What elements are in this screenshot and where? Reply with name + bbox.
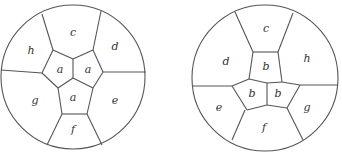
region-boundary xyxy=(267,105,287,108)
region-label-h: h xyxy=(27,44,34,57)
region-label-g: g xyxy=(31,94,38,107)
region-boundary xyxy=(278,13,293,52)
region-label-d: d xyxy=(222,55,229,68)
region-boundary xyxy=(73,78,93,88)
region-boundary xyxy=(247,105,267,110)
region-boundary xyxy=(278,52,282,82)
region-label-e: e xyxy=(216,101,223,114)
region-boundary xyxy=(58,78,73,88)
region-boundary xyxy=(93,11,101,50)
region-boundary xyxy=(1,70,42,73)
region-boundary xyxy=(93,72,103,88)
region-boundary xyxy=(73,50,93,59)
region-boundary xyxy=(287,85,300,108)
region-label-b: b xyxy=(262,60,269,73)
diagram-canvas: cdhaaagef cdhbbbegf xyxy=(0,0,342,157)
region-boundary xyxy=(249,79,267,83)
region-boundary xyxy=(93,50,103,72)
region-label-a: a xyxy=(70,91,77,104)
region-label-f: f xyxy=(70,123,77,136)
region-label-b: b xyxy=(248,87,255,100)
region-boundary xyxy=(232,110,245,140)
region-label-f: f xyxy=(261,121,268,134)
region-boundary xyxy=(287,108,303,140)
region-boundary xyxy=(232,86,247,110)
left-circle-diagram: cdhaaagef xyxy=(1,5,146,149)
region-label-a: a xyxy=(85,63,92,76)
region-boundary xyxy=(58,88,62,114)
region-label-b: b xyxy=(274,87,281,100)
region-boundary xyxy=(42,73,58,88)
region-label-a: a xyxy=(57,63,64,76)
region-label-c: c xyxy=(263,22,269,35)
region-label-d: d xyxy=(111,40,118,53)
region-boundary xyxy=(232,79,249,86)
region-boundary xyxy=(235,12,253,52)
region-label-g: g xyxy=(303,101,310,114)
region-label-e: e xyxy=(112,94,119,107)
region-boundary xyxy=(42,14,53,50)
region-boundary xyxy=(87,114,102,145)
region-label-c: c xyxy=(70,26,76,39)
region-boundary xyxy=(53,50,73,59)
region-boundary xyxy=(47,114,62,145)
right-circle-diagram: cdhbbbegf xyxy=(192,5,338,151)
region-boundary xyxy=(282,82,300,85)
region-boundary xyxy=(87,88,93,114)
region-label-h: h xyxy=(303,52,310,65)
region-boundary xyxy=(42,50,53,73)
region-boundary xyxy=(267,82,282,83)
region-boundary xyxy=(249,52,253,79)
